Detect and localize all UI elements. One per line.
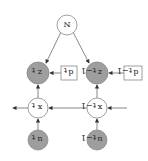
svg-text:z: z (98, 68, 102, 77)
svg-text:x: x (37, 103, 42, 112)
node-z_t: z t (27, 62, 49, 84)
svg-text:t−1: t−1 (81, 101, 96, 110)
edge-N-z_t1 (73, 32, 89, 63)
svg-text:d: d (133, 68, 138, 77)
svg-text:u: u (37, 135, 42, 144)
node-u_t: u t (28, 130, 48, 150)
node-d_t1: d t−1 (117, 66, 142, 80)
svg-text:z: z (38, 68, 42, 77)
node-x_t: x t (28, 98, 48, 118)
svg-text:x: x (97, 103, 102, 112)
svg-text:t−1: t−1 (81, 66, 96, 75)
node-u_t1: u t−1 (81, 130, 107, 150)
node-x_t1: x t−1 (81, 98, 107, 118)
node-z_t1: z t−1 (81, 62, 108, 84)
edge-N-z_t (46, 32, 61, 63)
svg-text:t−1: t−1 (81, 133, 96, 142)
node-d_t: d t (61, 66, 77, 80)
svg-text:u: u (97, 135, 102, 144)
node-N: N (57, 15, 77, 35)
graphical-model-diagram: N z t z t−1 d t d t−1 x t (0, 0, 148, 161)
svg-text:t−1: t−1 (117, 66, 132, 75)
svg-text:N: N (64, 20, 71, 29)
svg-text:d: d (68, 68, 73, 77)
